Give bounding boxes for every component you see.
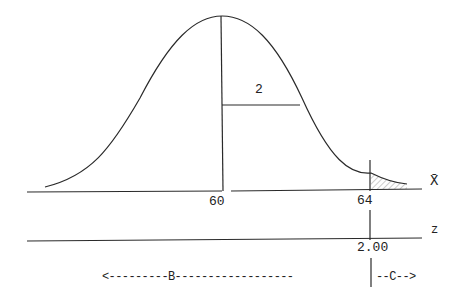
value-64-label: 64 <box>357 194 373 207</box>
normal-curve <box>45 16 407 187</box>
region-b-label: <---------B------------------ <box>102 271 293 283</box>
z-axis-label: z <box>431 224 438 236</box>
xbar-axis-line <box>27 191 222 192</box>
std-error-label: 2 <box>255 83 263 96</box>
normal-curve-diagram: 2 60 64 X̄ z 2.00 <---------B-----------… <box>0 0 465 302</box>
diagram-canvas <box>0 0 465 302</box>
region-c-label: --C--> <box>376 271 416 283</box>
mean-line <box>221 16 223 191</box>
z-value-label: 2.00 <box>357 241 388 254</box>
mean-label: 60 <box>209 195 225 208</box>
xbar-axis-line-right <box>231 189 422 191</box>
xbar-axis-label: X̄ <box>430 174 438 188</box>
